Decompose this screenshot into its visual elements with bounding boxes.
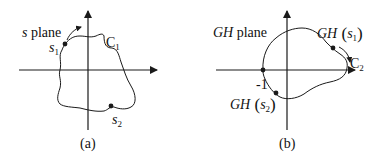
gh-plane-label: GH plane bbox=[213, 26, 267, 40]
contour-c1 bbox=[58, 34, 135, 111]
point-s1 bbox=[63, 42, 68, 47]
point-gh-s1 bbox=[331, 46, 336, 51]
s1-sub: 1 bbox=[54, 47, 59, 57]
c2-main: C bbox=[350, 56, 359, 71]
gh-s2-label: GH (s2) bbox=[230, 96, 276, 114]
c2-sub: 2 bbox=[359, 63, 364, 73]
s2-sub: 2 bbox=[117, 119, 122, 129]
paren-open: ( bbox=[337, 24, 347, 43]
s2-label: s2 bbox=[112, 113, 122, 129]
gh-s2-fn: GH bbox=[230, 97, 250, 112]
minus-one-label: -1 bbox=[256, 78, 268, 92]
s1-label: s1 bbox=[49, 41, 59, 57]
plane-text: plane bbox=[27, 25, 61, 40]
c1-main: C bbox=[106, 35, 115, 50]
direction-arrow-c1 bbox=[67, 27, 81, 40]
caption-b: (b) bbox=[279, 137, 295, 151]
c1-sub: 1 bbox=[115, 42, 120, 52]
plane-text: plane bbox=[233, 25, 267, 40]
paren-close: ) bbox=[270, 95, 276, 114]
caption-a: (a) bbox=[80, 137, 96, 151]
point-s2 bbox=[109, 104, 114, 109]
gh-s1-fn: GH bbox=[317, 26, 337, 41]
c2-label: C2 bbox=[350, 57, 364, 73]
paren-close: ) bbox=[357, 24, 363, 43]
paren-open: ( bbox=[250, 95, 260, 114]
gh-s1-label: GH (s1) bbox=[317, 25, 363, 43]
point-minus-one bbox=[261, 68, 266, 73]
c1-label: C1 bbox=[106, 36, 120, 52]
s-plane-label: s plane bbox=[22, 26, 61, 40]
plane-variable: GH bbox=[213, 25, 233, 40]
